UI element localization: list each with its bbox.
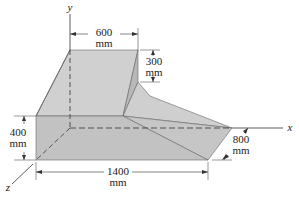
y-axis-label: y	[64, 2, 76, 13]
arrow-icon	[36, 170, 42, 174]
dim-600-label: 600 mm	[88, 27, 120, 49]
arrow-icon	[22, 155, 26, 160]
z-axis-label: z	[2, 182, 14, 193]
dim-300-label: 300 mm	[142, 56, 166, 78]
arrow-icon	[70, 32, 76, 36]
z-axis	[12, 164, 33, 184]
arrow-icon	[132, 32, 138, 36]
diagram-canvas	[0, 0, 299, 197]
x-axis-label: x	[284, 122, 296, 133]
upper-front-face	[36, 50, 138, 116]
arrow-icon	[202, 170, 208, 174]
dim-800-label: 800 mm	[228, 134, 254, 156]
dim-1400-label: 1400 mm	[102, 166, 134, 188]
arrow-icon	[22, 116, 26, 121]
dim-400-label: 400 mm	[4, 127, 32, 149]
